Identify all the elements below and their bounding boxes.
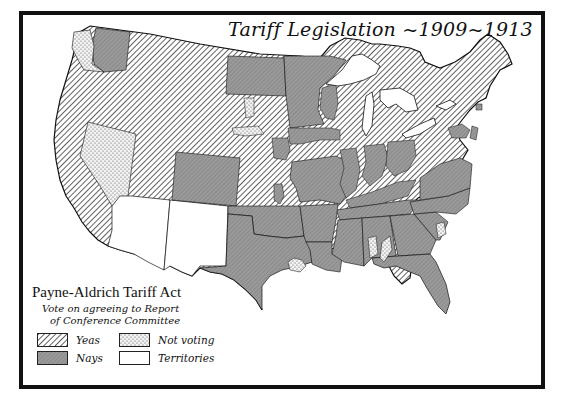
territories-white-swatch — [119, 351, 150, 365]
legend-item-yeas: Yeas — [37, 332, 119, 348]
florida-nays — [372, 254, 450, 314]
maine-nays-patch — [476, 104, 482, 110]
legend-item-not-voting: Not voting — [119, 332, 219, 348]
nays-gray-swatch — [37, 351, 68, 365]
legend: Payne-Aldrich Tariff Act Vote on agreein… — [30, 284, 230, 366]
map-title: Tariff Legislation ~1909~1913 — [228, 18, 533, 40]
arizona-territory — [108, 196, 170, 270]
not-voting-dots-swatch — [119, 333, 150, 347]
alabama-not-voting-1 — [368, 236, 378, 258]
south-dakota-not-voting-1 — [244, 98, 254, 118]
arkansas-nays — [300, 204, 338, 242]
legend-label: Nays — [76, 352, 103, 364]
legend-subtitle-line1: Vote on agreeing to Report — [42, 303, 230, 315]
legend-subtitle-line2: of Conference Committee — [50, 315, 230, 327]
new-mexico-territory — [164, 200, 228, 276]
north-dakota-nays — [226, 56, 286, 96]
legend-item-nays: Nays — [37, 350, 119, 366]
legend-title: Payne-Aldrich Tariff Act — [32, 284, 230, 301]
legend-item-territories: Territories — [119, 350, 219, 366]
colorado-nays — [172, 152, 240, 206]
yeas-hatch-swatch — [37, 333, 68, 347]
legend-label: Not voting — [158, 334, 214, 346]
legend-label: Yeas — [76, 334, 100, 346]
legend-label: Territories — [158, 352, 214, 364]
new-york-nays-patch-2 — [470, 126, 478, 140]
south-carolina-not-voting — [436, 222, 446, 238]
nebraska-nays-east — [272, 138, 290, 160]
south-dakota-not-voting-2 — [232, 126, 264, 136]
washington-nays — [92, 28, 130, 72]
